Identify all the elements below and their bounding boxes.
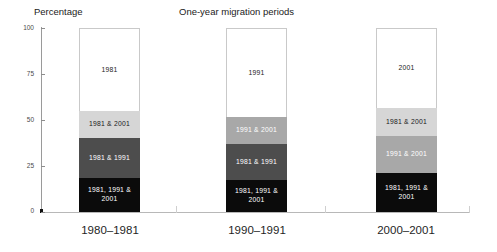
- segment-1980-1981-2[interactable]: 1981 & 1991: [79, 138, 140, 178]
- segment-label: 1981 & 2001: [384, 118, 429, 126]
- segment-1990-1991-3[interactable]: 1981, 1991 & 2001: [226, 180, 287, 212]
- bar-2000-2001[interactable]: 2001 1981 & 2001 1991 & 2001 1981, 1991 …: [376, 28, 437, 212]
- bar-1990-1991[interactable]: 1991 1991 & 2001 1981 & 1991 1981, 1991 …: [226, 28, 287, 212]
- segment-1980-1981-3[interactable]: 1981, 1991 & 2001: [79, 178, 140, 212]
- segment-1990-1991-0[interactable]: 1991: [226, 28, 287, 117]
- segment-2000-2001-3[interactable]: 1981, 1991 & 2001: [376, 173, 437, 212]
- segment-1980-1981-1[interactable]: 1981 & 2001: [79, 111, 140, 139]
- y-tick-25: [41, 166, 45, 167]
- segment-2000-2001-1[interactable]: 1981 & 2001: [376, 108, 437, 136]
- segment-label: 1981, 1991 & 2001: [79, 186, 140, 203]
- segment-label: 1991 & 2001: [234, 126, 279, 134]
- x-axis-label-2000-2001: 2000–2001: [336, 224, 476, 236]
- y-tick-100: [41, 28, 45, 29]
- segment-2000-2001-0[interactable]: 2001: [376, 28, 437, 108]
- stacked-bar-chart: Percentage One-year migration periods 10…: [0, 0, 497, 252]
- y-tick-label-25: 25: [8, 162, 34, 169]
- chart-title: One-year migration periods: [179, 6, 294, 17]
- y-tick-label-0: 0: [8, 207, 34, 214]
- segment-label: 1981, 1991 & 2001: [376, 184, 437, 201]
- x-axis-label-1980-1981: 1980–1981: [40, 224, 180, 236]
- x-axis-separator-3: [469, 206, 470, 213]
- segment-label: 1981 & 2001: [87, 120, 132, 128]
- x-axis-line: [41, 212, 470, 213]
- y-tick-label-75: 75: [8, 70, 34, 77]
- segment-label: 1981, 1991 & 2001: [226, 187, 287, 204]
- segment-2000-2001-2[interactable]: 1991 & 2001: [376, 136, 437, 173]
- x-axis-separator-1: [176, 206, 177, 213]
- segment-label: 1991 & 2001: [384, 150, 429, 158]
- segment-1990-1991-1[interactable]: 1991 & 2001: [226, 117, 287, 144]
- y-axis-title: Percentage: [34, 6, 83, 17]
- bar-1980-1981[interactable]: 1981 1981 & 2001 1981 & 1991 1981, 1991 …: [79, 28, 140, 212]
- y-tick-75: [41, 74, 45, 75]
- y-tick-50: [41, 120, 45, 121]
- segment-1980-1981-0[interactable]: 1981: [79, 28, 140, 111]
- segment-label: 1981 & 1991: [234, 158, 279, 166]
- y-tick-0: [41, 212, 45, 213]
- segment-label: 1991: [247, 69, 267, 77]
- x-axis-label-1990-1991: 1990–1991: [187, 224, 327, 236]
- segment-label: 1981: [100, 66, 120, 74]
- segment-1990-1991-2[interactable]: 1981 & 1991: [226, 144, 287, 180]
- x-axis-separator-2: [325, 206, 326, 213]
- segment-label: 2001: [397, 64, 417, 72]
- y-tick-label-50: 50: [8, 116, 34, 123]
- segment-label: 1981 & 1991: [87, 154, 132, 162]
- y-tick-label-100: 100: [8, 24, 34, 31]
